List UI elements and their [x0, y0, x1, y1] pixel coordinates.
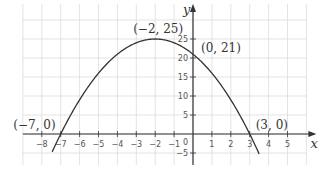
x-tick-label: −1	[168, 140, 180, 149]
point-label: (−7, 0)	[13, 118, 55, 132]
x-tick-label: 3	[247, 140, 252, 149]
x-axis-label: x	[310, 136, 318, 151]
x-tick-label: −8	[36, 140, 48, 149]
y-axis-label: y	[182, 2, 191, 17]
x-tick-label: 5	[285, 140, 290, 149]
y-tick-label: 15	[178, 73, 188, 82]
point-label: (−2, 25)	[133, 22, 183, 36]
x-tick-label: −5	[93, 140, 105, 149]
point-label: (3, 0)	[256, 118, 288, 132]
y-axis-arrow-icon	[190, 4, 196, 12]
x-tick-label: −4	[112, 140, 124, 149]
x-tick-label: 2	[228, 140, 233, 149]
x-tick-label: −6	[74, 140, 86, 149]
y-tick-label: 5	[183, 111, 188, 120]
y-tick-label: 10	[178, 92, 188, 101]
point-label: (0, 21)	[201, 41, 241, 55]
x-tick-label: −3	[130, 140, 142, 149]
parabola-curve	[52, 39, 259, 154]
x-tick-label: 4	[266, 140, 271, 149]
x-tick-label: 1	[209, 140, 214, 149]
origin-label: 0	[183, 138, 188, 147]
y-tick-label: −5	[176, 149, 188, 158]
chart-svg: −8−7−6−5−4−3−2−112345−55101520250xy(−2, …	[0, 0, 327, 169]
y-tick-label: 25	[178, 35, 188, 44]
parabola-chart: −8−7−6−5−4−3−2−112345−55101520250xy(−2, …	[0, 0, 327, 169]
x-tick-label: −2	[149, 140, 161, 149]
y-tick-label: 20	[178, 54, 188, 63]
